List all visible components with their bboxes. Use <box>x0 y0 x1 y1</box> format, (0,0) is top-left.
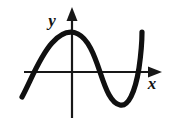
y-axis-arrowhead-icon <box>67 7 78 21</box>
coordinate-plot-svg: y x <box>0 0 169 123</box>
x-axis-label: x <box>147 74 157 93</box>
function-curve <box>22 32 142 105</box>
y-axis-label: y <box>46 11 56 30</box>
graph-figure: y x <box>0 0 169 123</box>
